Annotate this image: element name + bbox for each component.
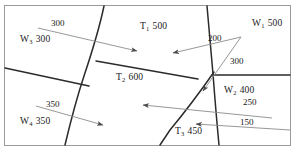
block-label-t2: T2600 bbox=[116, 73, 143, 83]
block-value: 300 bbox=[36, 34, 51, 44]
block-name: W bbox=[20, 34, 29, 44]
fault-left-curved bbox=[65, 6, 104, 145]
block-subscript: 4 bbox=[29, 120, 32, 127]
vector-300-top-left bbox=[38, 28, 137, 51]
block-subscript: 1 bbox=[261, 22, 264, 29]
block-value: 500 bbox=[268, 18, 283, 28]
block-subscript: 2 bbox=[233, 89, 236, 96]
block-label-w4: W4350 bbox=[20, 117, 50, 127]
fault-t2-boundary bbox=[96, 61, 198, 79]
block-value: 500 bbox=[152, 21, 167, 31]
block-value-w2-second: 250 bbox=[243, 98, 257, 107]
block-value: 400 bbox=[240, 85, 255, 95]
block-name: W bbox=[20, 116, 29, 126]
fault-left-horizontal bbox=[5, 68, 89, 86]
block-label-t3: T3450 bbox=[175, 127, 202, 137]
block-subscript: 2 bbox=[122, 76, 125, 83]
block-label-t1: T1500 bbox=[140, 22, 167, 32]
block-name: W bbox=[224, 85, 233, 95]
block-value: 600 bbox=[128, 72, 143, 82]
block-value: 350 bbox=[36, 116, 51, 126]
block-value: 450 bbox=[187, 126, 202, 136]
vector-200 bbox=[173, 37, 241, 53]
vector-label-150: 150 bbox=[240, 118, 254, 127]
block-subscript: 3 bbox=[181, 130, 184, 137]
block-name: W bbox=[252, 18, 261, 28]
vector-label-300-right: 300 bbox=[230, 57, 244, 66]
displacement-vectors bbox=[36, 28, 290, 130]
block-label-w3: W3300 bbox=[20, 35, 50, 45]
vector-label-350: 350 bbox=[46, 100, 60, 109]
vector-label-200: 200 bbox=[208, 34, 222, 43]
block-subscript: 3 bbox=[29, 38, 32, 45]
block-label-w2: W2400 bbox=[224, 86, 254, 96]
block-subscript: 1 bbox=[146, 25, 149, 32]
vector-label-300-top-left: 300 bbox=[51, 19, 65, 28]
fault-block-diagram: W3300 T1500 W1500 T2600 W2400 W4350 T345… bbox=[0, 0, 295, 151]
block-label-w1: W1500 bbox=[252, 19, 282, 29]
